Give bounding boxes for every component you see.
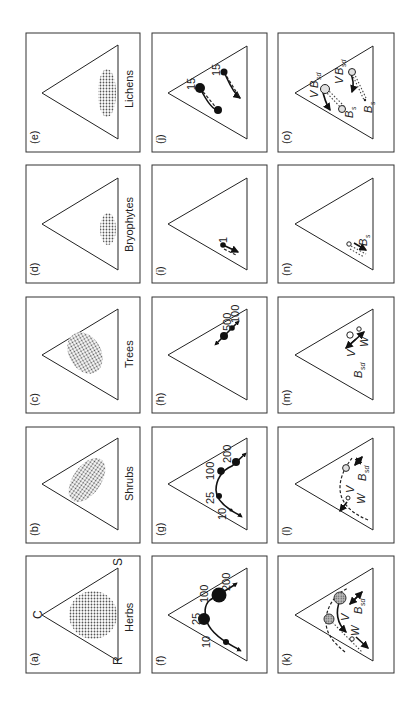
symbol-subscript: s (350, 106, 357, 110)
csr-triangle-figure: (e) Lichens (d) Bryophytes (c) Trees (b)… (0, 0, 419, 711)
age-label: 10 (200, 636, 212, 648)
symbol-b: B (362, 106, 374, 113)
symbol-subscript: sd (359, 362, 366, 371)
csr-triangle (295, 438, 373, 530)
panel-frame (278, 427, 394, 543)
hatched-state-circle (324, 614, 334, 624)
symbol-v: V (345, 348, 357, 357)
panel-title: Bryophytes (123, 196, 135, 252)
panel-label: (k) (280, 653, 292, 666)
symbol-v: V (339, 612, 351, 621)
hollow-state-circle (346, 496, 350, 500)
trajectory-line (346, 339, 356, 348)
panel-title: Trees (123, 340, 135, 368)
trajectory-arrow (242, 453, 246, 457)
symbol-b: B (356, 474, 368, 481)
symbol-b: B (352, 607, 364, 614)
symbol-w: W (355, 492, 367, 504)
panel-title: Shrubs (123, 466, 135, 501)
panel-frame (152, 297, 267, 413)
panel-o: V B sd V B sd B s B s (o) (278, 33, 394, 152)
panel-k: V W B sd (k) (278, 556, 394, 673)
symbol-v: V (344, 484, 356, 493)
symbol-b: B (308, 81, 320, 88)
hatched-state-circle (334, 592, 346, 604)
panel-label: (j) (154, 134, 166, 144)
age-label: 100 (229, 305, 241, 323)
symbol-subscript: sd (363, 465, 370, 474)
hollow-state-circle (347, 242, 351, 246)
symbol-subscript: sd (340, 59, 347, 68)
age-label: 10 (216, 508, 228, 520)
symbol-b: B (352, 371, 364, 378)
age-label: 15 (185, 78, 197, 90)
panel-title: Lichens (123, 70, 135, 108)
distribution-region (98, 69, 116, 117)
trajectory-dotted (327, 89, 344, 106)
age-label: 1 (217, 237, 229, 243)
panel-label: (a) (28, 653, 40, 666)
symbol-b: B (343, 111, 355, 118)
state-dot (217, 467, 225, 475)
state-dot (220, 332, 228, 340)
age-label: 25 (204, 492, 216, 504)
panel-label: (f) (154, 656, 166, 666)
panel-label: (m) (280, 390, 292, 407)
symbol-subscript: s (364, 234, 371, 238)
panel-label: (o) (280, 131, 292, 144)
csr-triangle (295, 46, 373, 139)
symbol-v: V (308, 89, 320, 98)
panel-a: (a) Herbs C R S (26, 556, 140, 673)
age-label: 15 (210, 64, 222, 76)
symbol-subscript: sd (315, 72, 322, 81)
panel-label: (b) (28, 523, 40, 536)
symbol-w: W (349, 624, 361, 636)
csr-triangle (295, 178, 373, 270)
age-label: 25 (190, 613, 202, 625)
symbol-w: W (358, 335, 370, 347)
state-dot (364, 99, 366, 101)
csr-triangle (168, 438, 247, 530)
state-dot (223, 639, 229, 645)
hollow-state-circle (321, 85, 330, 94)
symbol-b: B (333, 68, 345, 75)
age-label: 200 (221, 445, 233, 463)
trajectory-dotted (351, 246, 366, 254)
hollow-state-circle (349, 69, 356, 76)
state-dot (229, 508, 232, 511)
panel-frame (152, 165, 267, 283)
hollow-state-circle (343, 465, 350, 472)
panel-b: (b) Shrubs (26, 427, 140, 543)
csr-triangle (295, 309, 373, 400)
panel-label: (e) (28, 131, 40, 144)
vertex-label-r: R (111, 656, 125, 665)
panel-label: (c) (28, 393, 40, 406)
trajectory-line (356, 637, 368, 648)
hollow-state-circle (350, 637, 354, 641)
panel-label: (l) (280, 526, 292, 536)
symbol-subscript: sd (359, 598, 366, 607)
distribution-region (60, 326, 110, 380)
symbol-subscript: s (369, 101, 376, 105)
panel-label: (h) (154, 393, 166, 406)
panel-label: (g) (154, 523, 166, 536)
trajectory-dotted (350, 249, 364, 257)
csr-triangle (168, 178, 247, 270)
panel-i: 1 (i) (152, 165, 267, 283)
panel-label: (d) (28, 263, 40, 276)
hollow-state-circle (357, 327, 361, 331)
panel-label: (i) (154, 266, 166, 276)
age-label: 100 (204, 462, 216, 480)
panel-l: V W B sd (l) (278, 427, 394, 543)
panel-f: 10 25 100 200 (f) (152, 556, 267, 673)
panel-title: Herbs (123, 602, 135, 632)
trajectory-line (355, 457, 362, 465)
trajectory-line (340, 502, 347, 511)
trajectory-line (223, 245, 238, 252)
panel-j: 15 15 (j) (152, 33, 267, 152)
panel-m: B sd V W (m) (278, 297, 394, 413)
state-dot (214, 106, 222, 114)
panel-d: (d) Bryophytes (26, 165, 140, 283)
age-label: 100 (198, 585, 210, 603)
panel-c: (c) Trees (26, 297, 140, 413)
